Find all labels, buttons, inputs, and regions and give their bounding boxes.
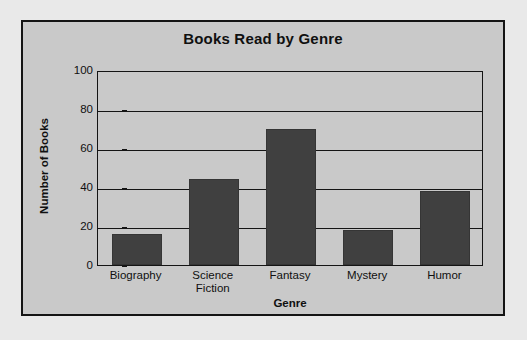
x-axis-tick-label-line: Fantasy	[251, 269, 328, 282]
bar	[266, 129, 316, 266]
y-axis-tick-label: 40	[59, 182, 93, 194]
x-axis-tick-label-line: Fiction	[174, 282, 251, 295]
bar-series	[98, 72, 482, 265]
bar	[189, 179, 239, 265]
chart-figure: Books Read by Genre Number of Books 0204…	[21, 20, 505, 316]
x-axis-tick-label-line: Science	[174, 269, 251, 282]
x-axis-tick-label-line: Humor	[406, 269, 483, 282]
x-axis-title: Genre	[97, 297, 483, 309]
x-axis-tick-label: Fantasy	[251, 269, 328, 282]
x-axis-tick-label: ScienceFiction	[174, 269, 251, 294]
y-axis-tick-label: 60	[59, 143, 93, 155]
bar	[112, 234, 162, 265]
chart-title: Books Read by Genre	[23, 30, 503, 47]
x-axis-tick-label-line: Mystery	[329, 269, 406, 282]
y-axis-title: Number of Books	[38, 86, 50, 246]
x-axis-tick-label: Mystery	[329, 269, 406, 282]
x-axis-tick-label: Biography	[97, 269, 174, 282]
bar	[343, 230, 393, 265]
y-axis-tick-label: 100	[59, 65, 93, 77]
y-axis-tick-label: 80	[59, 104, 93, 116]
plot-area	[97, 71, 483, 266]
x-axis-tick-label-line: Biography	[97, 269, 174, 282]
y-axis-tick-labels: 020406080100	[53, 71, 93, 266]
y-axis-tick-mark	[122, 266, 127, 267]
y-axis-tick-label: 0	[59, 260, 93, 272]
bar	[420, 191, 470, 265]
y-axis-tick-label: 20	[59, 221, 93, 233]
x-axis-tick-label: Humor	[406, 269, 483, 282]
